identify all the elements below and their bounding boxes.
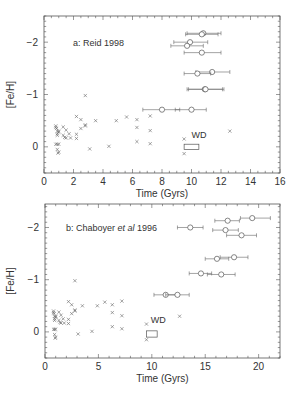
cross-marker (62, 134, 65, 137)
title-part: b: Chaboyer (66, 223, 118, 233)
y-axis-label: [Fe/H] (5, 267, 16, 294)
wd-box (146, 331, 157, 337)
cross-marker (77, 332, 80, 335)
x-tick-label: 0 (41, 176, 47, 187)
x-tick-label: 14 (245, 176, 257, 187)
circle-marker-with-errorbar (189, 87, 223, 92)
cross-marker (135, 118, 138, 121)
circle-marker-with-errorbar (177, 225, 203, 230)
circle-marker (184, 43, 189, 48)
circle-marker-with-errorbar (186, 32, 218, 37)
cross-marker (103, 301, 106, 304)
cross-marker (59, 321, 62, 324)
circle-marker (195, 71, 200, 76)
cross-marker (178, 315, 181, 318)
circle-marker (199, 50, 204, 55)
x-tick-label: 0 (42, 361, 48, 372)
cross-marker (75, 133, 78, 136)
y-tick-label: −1 (27, 89, 39, 100)
cross-marker (120, 327, 123, 330)
circle-marker-with-errorbar (215, 218, 240, 223)
circle-marker-with-errorbar (189, 271, 211, 276)
circle-marker (188, 225, 193, 230)
cross-marker (75, 137, 78, 140)
circle-marker (225, 218, 230, 223)
circle-marker-with-errorbar (166, 292, 190, 297)
cross-marker (67, 318, 70, 321)
cross-marker (145, 338, 148, 341)
cross-marker (149, 142, 152, 145)
y-tick-label: −2 (28, 222, 40, 233)
circle-marker (203, 87, 208, 92)
cross-marker (79, 127, 82, 130)
wd-box (184, 144, 199, 149)
x-tick-label: 8 (159, 176, 165, 187)
cross-marker (67, 322, 70, 325)
cross-marker (52, 311, 55, 314)
cross-marker (79, 118, 82, 121)
cross-marker (135, 126, 138, 129)
cross-marker (75, 115, 78, 118)
circle-marker (219, 272, 224, 277)
cross-marker (145, 322, 148, 325)
circle-marker-with-errorbar (143, 107, 180, 112)
x-tick-label: 15 (200, 361, 212, 372)
y-tick-label: −2 (27, 37, 39, 48)
cross-marker (115, 119, 118, 122)
y-tick-label: 0 (32, 141, 38, 152)
wd-annotation: WD (192, 130, 207, 140)
title-part: et al (118, 223, 136, 233)
cross-marker (69, 136, 72, 139)
cross-marker (183, 152, 186, 155)
cross-marker (90, 330, 93, 333)
cross-marker (120, 299, 123, 302)
circle-marker (159, 107, 164, 112)
cross-marker (88, 147, 91, 150)
chart-canvas: 02468101214160−1−2Time (Gyrs)[Fe/H]a: Re… (0, 0, 297, 397)
circle-marker (239, 233, 244, 238)
cross-marker (135, 140, 138, 143)
cross-marker (59, 314, 62, 317)
cross-marker (96, 304, 99, 307)
panel-title: a: Reid 1998 (73, 38, 124, 48)
cross-marker (111, 303, 114, 306)
cross-marker (65, 128, 68, 131)
cross-marker (73, 279, 76, 282)
x-axis-label: Time (Gyrs) (136, 188, 188, 199)
x-tick-label: 10 (186, 176, 198, 187)
cross-marker (149, 129, 152, 132)
y-tick-label: 0 (33, 326, 39, 337)
cross-marker (94, 119, 97, 122)
cross-marker (228, 130, 231, 133)
cross-marker (81, 304, 84, 307)
x-axis-label: Time (Gyrs) (136, 373, 188, 384)
cross-marker (84, 94, 87, 97)
cross-marker (54, 124, 57, 127)
x-tick-label: 2 (71, 176, 77, 187)
x-tick-label: 12 (215, 176, 227, 187)
wd-annotation: WD (151, 315, 166, 325)
cross-marker (56, 152, 59, 155)
cross-marker (111, 311, 114, 314)
cross-marker (120, 314, 123, 317)
x-tick-label: 20 (253, 361, 265, 372)
cross-marker (54, 337, 57, 340)
y-tick-label: −1 (28, 274, 40, 285)
circle-marker (199, 32, 204, 37)
cross-marker (63, 321, 66, 324)
cross-marker (70, 303, 73, 306)
cross-marker (111, 325, 114, 328)
circle-marker (250, 215, 255, 220)
cross-marker (62, 317, 65, 320)
panel-title: b: Chaboyer et al 1996 (66, 223, 157, 233)
circle-marker-with-errorbar (171, 43, 203, 48)
x-tick-label: 4 (100, 176, 106, 187)
cross-marker (183, 137, 186, 140)
x-tick-label: 16 (274, 176, 286, 187)
x-tick-label: 6 (130, 176, 136, 187)
cross-marker (67, 300, 70, 303)
circle-marker (214, 256, 219, 261)
cross-marker (70, 312, 73, 315)
cross-marker (67, 132, 70, 135)
circle-marker (223, 228, 228, 233)
